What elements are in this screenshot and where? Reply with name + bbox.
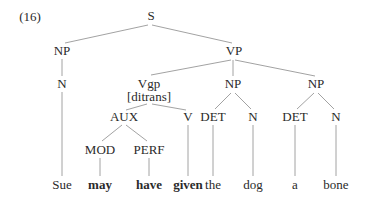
word-given: given <box>173 178 203 192</box>
word-dog: dog <box>243 178 263 192</box>
word-sue: Sue <box>52 178 72 192</box>
node-V: V <box>183 110 192 124</box>
branch-VP-NP-do <box>235 60 315 76</box>
branch-NP-DET-do <box>297 93 314 109</box>
branch-VP-Vgp <box>151 60 231 75</box>
word-the: the <box>205 178 221 192</box>
word-have: have <box>136 178 162 192</box>
node-VP: VP <box>226 44 243 58</box>
branch-Vgp-V <box>152 104 186 110</box>
branch-NP-N-do <box>318 93 334 109</box>
node-DET-direct-object: DET <box>282 110 307 124</box>
node-N-indirect-object: N <box>248 110 257 124</box>
node-S: S <box>147 9 154 23</box>
tree-branches <box>0 0 367 204</box>
node-DET-indirect-object: DET <box>200 110 225 124</box>
word-may: may <box>88 178 112 192</box>
branch-S-VP <box>152 25 232 43</box>
word-a: a <box>292 178 298 192</box>
branch-NP-N-io <box>235 93 251 109</box>
node-MOD: MOD <box>85 143 115 157</box>
node-PERF: PERF <box>133 143 164 157</box>
node-NP-direct-object: NP <box>308 77 325 91</box>
branch-NP-DET-io <box>215 93 231 109</box>
branch-S-NP <box>65 25 148 43</box>
example-number: (16) <box>19 10 41 24</box>
node-NP-subject: NP <box>54 44 71 58</box>
node-AUX: AUX <box>110 110 138 124</box>
branch-AUX-PERF <box>126 125 147 141</box>
node-N-subject: N <box>57 77 66 91</box>
word-bone: bone <box>323 178 348 192</box>
node-NP-indirect-object: NP <box>225 77 242 91</box>
branch-AUX-MOD <box>102 125 122 141</box>
node-Vgp-feature: [ditrans] <box>127 90 171 104</box>
node-N-direct-object: N <box>331 110 340 124</box>
